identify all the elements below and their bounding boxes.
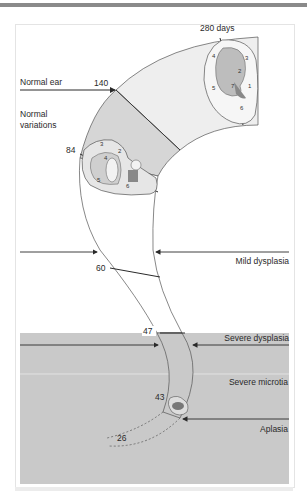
label-60: 60	[96, 263, 106, 273]
label-280-days: 280 days	[200, 23, 235, 33]
label-84: 84	[66, 145, 76, 155]
label-26: 26	[117, 433, 127, 443]
label-47: 47	[143, 326, 153, 336]
ear-development-diagram: 4 3 2 1 5 7 6 3 4 2 5 6 280 days 140 84 …	[0, 0, 307, 494]
label-normal-variations-line1: Normal	[20, 109, 48, 119]
label-normal-variations-line2: variations	[20, 120, 56, 130]
label-severe-dysplasia: Severe dysplasia	[224, 333, 289, 343]
label-aplasia: Aplasia	[260, 424, 288, 434]
severe-region	[20, 333, 289, 484]
label-140: 140	[94, 78, 108, 88]
label-severe-microtia: Severe microtia	[229, 377, 288, 387]
label-43: 43	[155, 392, 165, 402]
label-normal-ear: Normal ear	[20, 77, 62, 87]
label-mild-dysplasia: Mild dysplasia	[236, 256, 290, 266]
